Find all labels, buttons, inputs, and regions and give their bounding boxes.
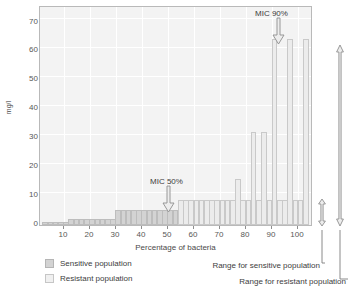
vgridline-70 [220, 7, 221, 225]
y-tick-label-70: 70 [10, 18, 38, 26]
legend-swatch-sensitive-icon [45, 259, 54, 268]
gridline-50 [40, 76, 311, 77]
x-tickmark-40 [141, 226, 142, 229]
x-axis-title: Percentage of bacteria [39, 243, 312, 252]
x-tickmark-100 [297, 226, 298, 229]
x-tick-label-50: 50 [155, 230, 179, 239]
vgridline-80 [246, 7, 247, 225]
legend-swatch-resistant-icon [45, 274, 54, 283]
annotation-mic90-label: MIC 90% [255, 9, 288, 18]
x-tickmark-50 [167, 226, 168, 229]
x-tick-label-60: 60 [181, 230, 205, 239]
vgridline-100 [298, 7, 299, 225]
x-tickmark-80 [245, 226, 246, 229]
y-tick-label-50: 50 [10, 75, 38, 83]
y-tick-label-20: 20 [10, 162, 38, 170]
legend-item-resistant: Resistant population [45, 274, 133, 283]
y-tick-label-30: 30 [10, 133, 38, 141]
range-arrow-resistant-icon [337, 45, 344, 226]
chart-figure: mg/l 70 60 50 40 30 20 10 0 [0, 0, 354, 298]
plot-area [39, 6, 312, 226]
range-arrow-sensitive-icon [319, 199, 326, 226]
x-tickmark-90 [271, 226, 272, 229]
y-tick-label-10: 10 [10, 191, 38, 199]
vgridline-30 [116, 7, 117, 225]
bar-resistant-90 [272, 39, 278, 225]
x-tickmark-60 [193, 226, 194, 229]
y-tick-label-60: 60 [10, 46, 38, 54]
leader-line-sensitive [322, 230, 325, 263]
x-tickmark-30 [115, 226, 116, 229]
x-tick-label-90: 90 [259, 230, 283, 239]
x-tick-label-10: 10 [51, 230, 75, 239]
gridline-20 [40, 163, 311, 164]
x-tick-label-70: 70 [207, 230, 231, 239]
vgridline-50 [168, 7, 169, 225]
bar-resistant-102 [303, 39, 309, 225]
bar-resistant-96 [287, 39, 293, 225]
gridline-10 [40, 192, 311, 193]
gridline-70 [40, 18, 311, 19]
y-tick-label-40: 40 [10, 104, 38, 112]
vgridline-40 [142, 7, 143, 225]
x-tick-label-30: 30 [103, 230, 127, 239]
y-tick-label-0: 0 [10, 220, 38, 228]
range-label-sensitive: Range for sensitive population [212, 261, 320, 270]
x-tick-label-100: 100 [285, 230, 309, 239]
x-tickmark-70 [219, 226, 220, 229]
gridline-40 [40, 105, 311, 106]
annotation-mic50-label: MIC 50% [150, 177, 183, 186]
x-tickmark-20 [89, 226, 90, 229]
vgridline-20 [90, 7, 91, 225]
gridline-60 [40, 47, 311, 48]
legend-label-resistant: Resistant population [60, 274, 133, 283]
range-label-resistant: Range for resistant population [239, 277, 346, 286]
vgridline-10 [64, 7, 65, 225]
plot-inner [40, 7, 311, 225]
vgridline-60 [194, 7, 195, 225]
leader-line-resistant [340, 230, 348, 279]
legend-label-sensitive: Sensitive population [60, 259, 132, 268]
x-tick-label-80: 80 [233, 230, 257, 239]
gridline-30 [40, 134, 311, 135]
x-tickmark-10 [63, 226, 64, 229]
x-tick-label-20: 20 [77, 230, 101, 239]
legend-item-sensitive: Sensitive population [45, 259, 132, 268]
x-tick-label-40: 40 [129, 230, 153, 239]
